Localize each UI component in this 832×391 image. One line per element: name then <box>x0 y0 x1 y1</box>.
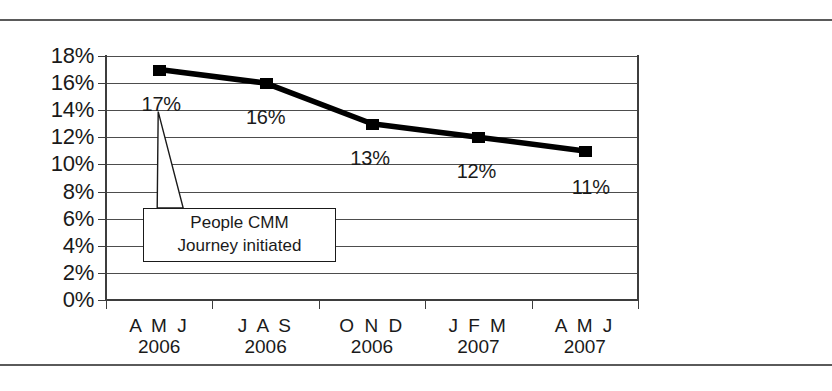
y-axis-tick <box>98 83 106 84</box>
x-axis-category-label: J A S2006 <box>213 315 319 358</box>
y-axis-tick-label: 14% <box>20 99 94 121</box>
y-axis-tick-label: 18% <box>20 45 94 67</box>
category-months: O N D <box>319 315 425 336</box>
category-year: 2006 <box>319 336 425 357</box>
x-axis-tick <box>425 300 426 309</box>
x-axis-category-label: A M J2007 <box>532 315 638 358</box>
gridline <box>106 56 638 57</box>
x-axis-tick <box>212 300 213 309</box>
data-point-label: 13% <box>325 148 415 168</box>
callout-line-1: People CMM <box>190 212 288 235</box>
y-axis-tick-label: 12% <box>20 126 94 148</box>
gridline <box>106 273 638 274</box>
y-axis-tick <box>98 273 106 274</box>
y-axis-tick-label: 10% <box>20 153 94 175</box>
page-rule-bottom <box>0 364 832 366</box>
data-point-label: 17% <box>116 94 206 114</box>
x-axis-category-label: O N D2006 <box>319 315 425 358</box>
category-months: J A S <box>213 315 319 336</box>
x-axis-category-label: A M J2006 <box>106 315 212 358</box>
y-axis-tick <box>98 300 106 301</box>
line-chart: 18%16%14%12%10%8%6%4%2%0% A M J2006J A S… <box>0 19 832 364</box>
category-months: J F M <box>425 315 531 336</box>
x-axis-tick <box>106 300 107 309</box>
y-axis-tick <box>98 192 106 193</box>
y-axis-tick-label: 2% <box>20 262 94 284</box>
y-axis-tick <box>98 164 106 165</box>
data-point-marker <box>366 119 379 130</box>
category-year: 2007 <box>425 336 531 357</box>
category-months: A M J <box>106 315 212 336</box>
y-axis-tick <box>98 219 106 220</box>
x-axis-line <box>105 299 639 301</box>
data-point-label: 11% <box>546 177 636 197</box>
plot-right-border <box>637 55 639 301</box>
data-point-marker <box>472 132 485 143</box>
x-axis-tick <box>532 300 533 309</box>
x-axis-tick <box>319 300 320 309</box>
y-axis-tick <box>98 56 106 57</box>
y-axis-tick-label: 16% <box>20 72 94 94</box>
data-point-marker <box>579 146 592 157</box>
y-axis-tick <box>98 110 106 111</box>
category-year: 2007 <box>532 336 638 357</box>
category-year: 2006 <box>106 336 212 357</box>
category-months: A M J <box>532 315 638 336</box>
data-point-marker <box>153 65 166 76</box>
x-axis-category-label: J F M2007 <box>425 315 531 358</box>
data-point-label: 12% <box>431 161 521 181</box>
data-point-label: 16% <box>221 107 311 127</box>
x-axis-tick <box>638 300 639 309</box>
y-axis-tick <box>98 246 106 247</box>
y-axis-tick-label: 0% <box>20 289 94 311</box>
gridline <box>106 83 638 84</box>
callout-line-2: Journey initiated <box>178 235 302 258</box>
y-axis-line <box>105 55 107 301</box>
y-axis-tick <box>98 137 106 138</box>
y-axis-tick-label: 6% <box>20 208 94 230</box>
data-point-marker <box>260 78 273 89</box>
gridline <box>106 137 638 138</box>
chart-page: 18%16%14%12%10%8%6%4%2%0% A M J2006J A S… <box>0 0 832 391</box>
y-axis-tick-label: 4% <box>20 235 94 257</box>
category-year: 2006 <box>213 336 319 357</box>
y-axis-tick-label: 8% <box>20 181 94 203</box>
people-cmm-callout: People CMM Journey initiated <box>143 208 336 262</box>
